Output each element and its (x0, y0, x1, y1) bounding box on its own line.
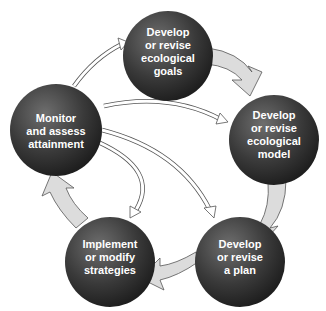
node-strategies: Implement or modify strategies (65, 217, 155, 307)
node-monitor-line-2: and assess (26, 125, 85, 137)
node-model: Develop or revise ecological model (229, 95, 319, 185)
arrow-monitor-to-plan (102, 130, 216, 218)
node-model-line-1: Develop (253, 109, 296, 121)
node-strategies-line-1: Implement (82, 238, 137, 250)
node-goals: Develop or revise ecological goals (123, 11, 213, 101)
node-plan-line-3: a plan (224, 264, 256, 276)
arrow-goals-to-model (206, 48, 262, 96)
node-model-line-4: model (258, 148, 290, 160)
node-strategies-line-3: strategies (84, 264, 136, 276)
node-plan-line-2: or revise (217, 251, 263, 263)
node-goals-line-4: goals (154, 65, 183, 77)
cycle-diagram: Develop or revise ecological goals Devel… (0, 0, 326, 311)
node-plan-line-1: Develop (219, 238, 262, 250)
node-plan: Develop or revise a plan (195, 217, 285, 307)
node-strategies-line-2: or modify (85, 251, 136, 263)
node-goals-line-1: Develop (147, 26, 190, 38)
arrow-strategies-to-monitor (42, 172, 88, 228)
node-goals-line-2: or revise (145, 39, 191, 51)
node-model-line-3: ecological (247, 135, 301, 147)
node-monitor-line-1: Monitor (36, 112, 77, 124)
node-model-line-2: or revise (251, 122, 297, 134)
arrow-monitor-to-goals (74, 38, 128, 86)
node-goals-line-3: ecological (141, 52, 195, 64)
node-monitor: Monitor and assess attainment (10, 84, 102, 176)
node-monitor-line-3: attainment (28, 138, 84, 150)
arrow-monitor-to-model (104, 101, 228, 124)
arrow-monitor-to-strategies (98, 142, 143, 218)
